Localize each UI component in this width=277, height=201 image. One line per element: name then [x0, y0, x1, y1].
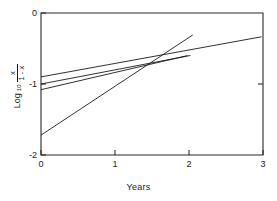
chart-figure: 0 1 2 3 0 -1 -2 Years Log10 x 1 - x	[0, 0, 277, 201]
x-tick-label-1: 1	[112, 159, 117, 169]
axis-frame	[41, 13, 263, 155]
y-axis-title-prefix: Log	[12, 93, 22, 108]
data-series-group	[41, 35, 262, 135]
fraction-numerator: x	[9, 69, 17, 77]
x-axis-title: Years	[0, 182, 277, 192]
y-tick-label-minus2: -2	[24, 150, 37, 160]
data-line-1	[41, 37, 262, 77]
y-tick-label-0: 0	[24, 8, 37, 18]
y-axis-title-subscript: 10	[16, 84, 22, 91]
x-tick-label-0: 0	[38, 159, 43, 169]
y-axis-title-fraction: x 1 - x	[9, 64, 25, 83]
plot-canvas	[0, 0, 277, 201]
tick-marks	[41, 13, 263, 155]
y-axis-title: Log10 x 1 - x	[9, 38, 25, 134]
data-line-4	[41, 35, 193, 135]
fraction-denominator: 1 - x	[17, 64, 26, 83]
x-tick-label-2: 2	[186, 159, 191, 169]
y-tick-label-minus1: -1	[24, 79, 37, 89]
x-tick-label-3: 3	[260, 159, 265, 169]
